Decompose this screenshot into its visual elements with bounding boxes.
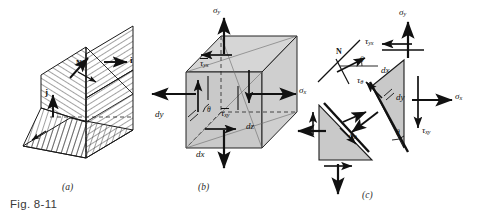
label-sigma-y-panel-c: σy bbox=[399, 8, 406, 17]
label-sigma-x-panel-c: σx bbox=[455, 92, 462, 101]
label-tau-xy-panel-c: τxy bbox=[422, 126, 430, 135]
label-dz-panel-b: dz bbox=[246, 122, 254, 131]
label-theta-inset: θ bbox=[360, 56, 364, 64]
label-dx-panel-b: dx bbox=[196, 150, 205, 159]
label-theta-panel-b: θ bbox=[207, 106, 211, 114]
sigma-theta-subscript: θ bbox=[353, 133, 356, 140]
panel-c-graphic bbox=[298, 22, 452, 194]
tau-xy-subscript-c: xy bbox=[425, 128, 430, 135]
sigma-y-subscript: y bbox=[217, 8, 220, 15]
label-i-unit-vector: i bbox=[130, 56, 133, 65]
sublabel-a: (a) bbox=[62, 182, 73, 192]
panel-b-graphic bbox=[152, 18, 297, 168]
label-n-normal-inset: N bbox=[336, 48, 342, 56]
label-tau-yx-panel-c: τyx bbox=[365, 37, 373, 46]
figure-8-11: i j N σy σx τyx τxy dy dx dz θ N θ σy σx… bbox=[0, 0, 477, 224]
tau-yx-subscript-c: yx bbox=[368, 39, 373, 46]
label-j-unit-vector: j bbox=[45, 88, 48, 97]
tau-xy-subscript: xy bbox=[224, 111, 229, 118]
label-tau-yx-panel-b: τyx bbox=[200, 58, 208, 68]
tau-yx-subscript: yx bbox=[203, 61, 208, 68]
figure-caption: Fig. 8-11 bbox=[10, 198, 57, 210]
label-dy-panel-c: dy bbox=[396, 93, 405, 102]
sigma-y-subscript-c: y bbox=[403, 10, 406, 17]
sublabel-c: (c) bbox=[362, 190, 373, 200]
label-sigma-x-panel-b: σx bbox=[299, 86, 306, 95]
panel-a-graphic bbox=[23, 26, 133, 158]
label-dx-panel-c: dx bbox=[381, 66, 390, 75]
sublabel-b: (b) bbox=[198, 182, 209, 192]
sigma-x-subscript-c: x bbox=[459, 94, 462, 101]
sigma-x-subscript: x bbox=[303, 88, 306, 95]
label-sigma-theta: σθ bbox=[349, 131, 356, 140]
label-n-normal-vector: N bbox=[76, 60, 82, 68]
label-dy-panel-b: dy bbox=[155, 110, 164, 119]
label-sigma-y-panel-b: σy bbox=[213, 6, 220, 15]
label-tau-theta: τθ bbox=[357, 76, 363, 85]
tau-theta-subscript: θ bbox=[360, 78, 363, 85]
label-tau-xy-panel-b: τxy bbox=[221, 108, 229, 118]
label-theta-panel-c: θ bbox=[396, 129, 400, 137]
